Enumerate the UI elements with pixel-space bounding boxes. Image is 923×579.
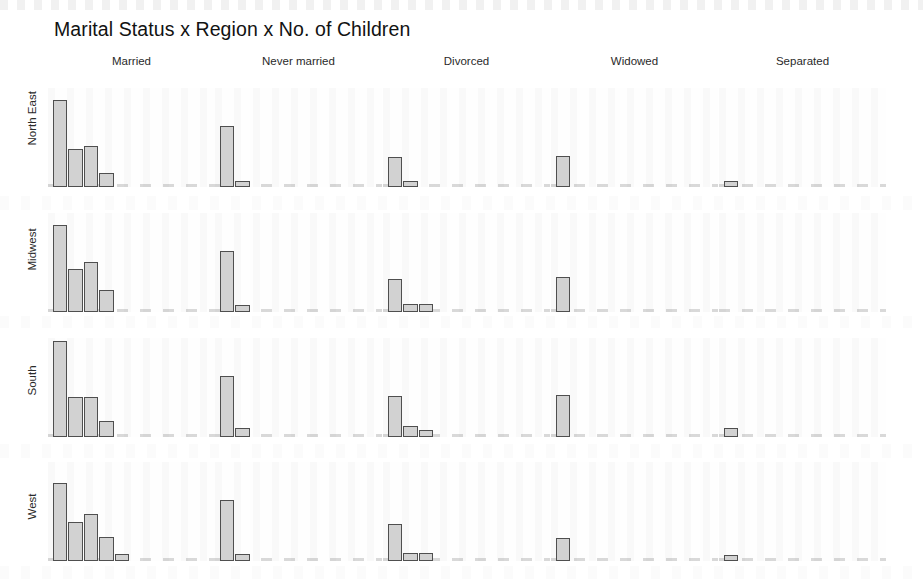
bar: [556, 277, 571, 312]
bar: [403, 304, 418, 312]
bar: [235, 554, 250, 561]
scan-artifact-band: [0, 566, 923, 579]
bar: [99, 421, 114, 437]
bar: [419, 430, 434, 437]
bar: [84, 397, 99, 437]
scan-streaks: [383, 338, 550, 437]
panel-baseline: [551, 184, 718, 187]
chart-title: Marital Status x Region x No. of Childre…: [54, 18, 410, 41]
scan-streaks: [551, 88, 718, 187]
scan-streaks: [215, 213, 382, 312]
row-header-west: West: [24, 462, 40, 561]
bar: [388, 524, 403, 561]
bar: [403, 181, 418, 187]
bar: [388, 279, 403, 312]
panel-south-separated: [719, 338, 886, 437]
scan-streaks: [383, 462, 550, 561]
row-header-midwest: Midwest: [24, 213, 40, 312]
panel-north-east-never-married: [215, 88, 382, 187]
panel-west-divorced: [383, 462, 550, 561]
column-header-never-married: Never married: [215, 55, 382, 67]
bar: [53, 483, 68, 561]
bar: [68, 149, 83, 187]
bar: [84, 262, 99, 312]
bar: [388, 157, 403, 187]
scan-artifact-band: [0, 196, 923, 210]
bar: [99, 537, 114, 561]
panel-baseline: [719, 558, 886, 561]
panel-baseline: [719, 434, 886, 437]
bar: [388, 396, 403, 437]
bar: [84, 146, 99, 187]
scan-streaks: [215, 462, 382, 561]
panel-baseline: [551, 309, 718, 312]
panel-north-east-divorced: [383, 88, 550, 187]
bar: [403, 426, 418, 437]
panel-south-widowed: [551, 338, 718, 437]
bar: [68, 522, 83, 561]
scan-artifact-top: [0, 0, 923, 10]
bar: [53, 225, 68, 312]
bar: [724, 555, 739, 561]
panel-north-east-separated: [719, 88, 886, 187]
panel-midwest-never-married: [215, 213, 382, 312]
panel-baseline: [551, 434, 718, 437]
bar: [419, 553, 434, 561]
bar: [235, 428, 250, 437]
scan-streaks: [383, 213, 550, 312]
bar: [220, 376, 235, 437]
panel-south-married: [48, 338, 215, 437]
bar: [724, 181, 739, 187]
scan-streaks: [551, 338, 718, 437]
panel-midwest-divorced: [383, 213, 550, 312]
panel-north-east-married: [48, 88, 215, 187]
bar: [220, 500, 235, 561]
scan-streaks: [719, 88, 886, 187]
scan-streaks: [719, 213, 886, 312]
bar: [99, 173, 114, 187]
bar: [235, 305, 250, 312]
scan-streaks: [719, 462, 886, 561]
bar: [99, 290, 114, 312]
panel-midwest-widowed: [551, 213, 718, 312]
scan-artifact-band: [0, 316, 923, 328]
column-header-widowed: Widowed: [551, 55, 718, 67]
bar: [68, 269, 83, 312]
bar: [556, 156, 571, 187]
bar: [220, 251, 235, 312]
scan-streaks: [551, 462, 718, 561]
scan-streaks: [215, 88, 382, 187]
scan-streaks: [551, 213, 718, 312]
bar: [53, 100, 68, 187]
bar: [556, 538, 571, 561]
panel-west-married: [48, 462, 215, 561]
panel-midwest-married: [48, 213, 215, 312]
panel-west-never-married: [215, 462, 382, 561]
panel-north-east-widowed: [551, 88, 718, 187]
scan-artifact-band: [0, 444, 923, 458]
bar: [115, 554, 130, 561]
row-header-south: South: [24, 338, 40, 437]
bar: [68, 397, 83, 437]
chart-canvas: Marital Status x Region x No. of Childre…: [0, 0, 923, 579]
bar: [220, 126, 235, 187]
scan-streaks: [215, 338, 382, 437]
bar: [235, 181, 250, 187]
bar: [724, 428, 739, 437]
panel-south-divorced: [383, 338, 550, 437]
panel-baseline: [719, 309, 886, 312]
bar: [556, 395, 571, 437]
scan-streaks: [719, 338, 886, 437]
panel-south-never-married: [215, 338, 382, 437]
panel-baseline: [719, 184, 886, 187]
column-header-separated: Separated: [719, 55, 886, 67]
panel-baseline: [551, 558, 718, 561]
panel-midwest-separated: [719, 213, 886, 312]
panel-west-widowed: [551, 462, 718, 561]
row-header-north-east: North East: [24, 88, 40, 187]
panel-west-separated: [719, 462, 886, 561]
bar: [419, 304, 434, 312]
column-header-married: Married: [48, 55, 215, 67]
bar: [84, 514, 99, 561]
column-header-divorced: Divorced: [383, 55, 550, 67]
